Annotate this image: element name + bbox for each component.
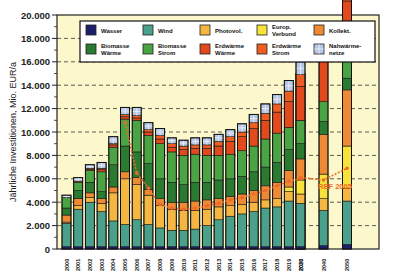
bar-2010 xyxy=(179,140,188,249)
bar-segment xyxy=(343,0,352,1)
bar-segment xyxy=(132,220,141,247)
ref-marker xyxy=(217,202,221,206)
bar-segment xyxy=(319,59,328,101)
bar-segment xyxy=(144,136,153,164)
bar-segment xyxy=(121,179,130,225)
bar-segment xyxy=(273,133,282,162)
bar-segment xyxy=(97,172,106,192)
bar-segment xyxy=(167,182,176,202)
bar-segment xyxy=(144,130,153,132)
bar-segment xyxy=(121,172,130,179)
bar-segment xyxy=(261,139,270,167)
bar-segment xyxy=(109,147,118,165)
bar-segment xyxy=(179,210,188,230)
bar-segment xyxy=(167,144,176,148)
x-tick-label: 2040 xyxy=(321,259,327,271)
bar-segment xyxy=(74,191,83,199)
bar-2000 xyxy=(62,195,71,249)
legend-swatch xyxy=(314,25,324,35)
bar-segment xyxy=(121,114,130,116)
bar-segment xyxy=(156,139,165,144)
bar-2001 xyxy=(74,178,83,249)
bar-segment xyxy=(226,154,235,179)
legend-label: Wärme xyxy=(215,50,236,56)
bar-segment xyxy=(179,146,188,150)
bar-segment xyxy=(238,176,247,194)
x-tick-label: 2003 xyxy=(99,259,105,271)
bar-segment xyxy=(74,199,83,206)
bar-segment xyxy=(62,215,71,222)
bar-segment xyxy=(284,102,293,128)
bar-segment xyxy=(249,172,258,191)
bar-segment xyxy=(132,118,141,120)
y-axis: 02.0004.0006.0008.00010.00012.00014.0001… xyxy=(21,10,57,255)
bar-segment xyxy=(191,182,200,201)
bar-segment xyxy=(319,134,328,174)
legend-label: Nahwärme- xyxy=(329,43,361,49)
bar-segment xyxy=(284,91,293,102)
bar-segment xyxy=(132,178,141,185)
bar-segment xyxy=(167,209,176,230)
bar-segment xyxy=(284,150,293,171)
bar-segment xyxy=(261,120,270,139)
bar-segment xyxy=(238,151,247,177)
bar-segment xyxy=(85,171,94,183)
y-axis-title: Jährliche Investitionen, Mio. EUR/a xyxy=(8,62,18,202)
x-tick-label: 2007 xyxy=(145,259,151,271)
stacked-bar-chart: 02.0004.0006.0008.00010.00012.00014.0001… xyxy=(0,0,395,278)
ref-marker xyxy=(193,206,197,210)
x-axis: 2000200120022003200420052006200720082009… xyxy=(64,258,351,271)
bar-segment xyxy=(97,212,106,247)
x-tick-label: 2008 xyxy=(157,259,163,271)
legend-label: Strom xyxy=(158,50,175,56)
bar-segment xyxy=(179,155,188,184)
bar-segment xyxy=(319,210,328,245)
x-tick-label: 2050 xyxy=(344,259,350,271)
y-tick-label: 16.000 xyxy=(21,56,50,67)
y-tick-label: 0 xyxy=(45,244,50,255)
bar-segment xyxy=(226,216,235,246)
bar-segment xyxy=(85,198,94,203)
legend-label: Erdwärme xyxy=(215,43,245,49)
legend-label: Biomasse xyxy=(158,43,187,49)
legend-label: Photovol. xyxy=(215,28,243,34)
legend-swatch xyxy=(257,44,267,54)
bar-segment xyxy=(296,120,305,143)
bar-segment xyxy=(121,117,130,119)
bar-segment xyxy=(179,185,188,203)
bar-2002 xyxy=(85,165,94,249)
bar-segment xyxy=(319,102,328,122)
legend-label: Kollekt. xyxy=(329,28,351,34)
bar-segment xyxy=(132,185,141,220)
bar-segment xyxy=(109,165,118,187)
bar-segment xyxy=(261,208,270,247)
bar-2017 xyxy=(261,104,270,249)
bar-segment xyxy=(109,187,118,193)
ref-marker xyxy=(345,166,349,170)
y-tick-label: 12.000 xyxy=(21,103,50,114)
bar-2005 xyxy=(121,107,130,249)
bar-segment xyxy=(226,141,235,154)
bar-segment xyxy=(191,148,200,154)
bar-segment xyxy=(261,167,270,186)
legend-label: Europ. xyxy=(272,24,291,30)
ref-marker xyxy=(264,189,268,193)
x-tick-label: 2004 xyxy=(110,258,116,271)
legend-swatch xyxy=(143,25,153,35)
bar-segment xyxy=(296,86,305,120)
bar-segment xyxy=(62,198,71,209)
bar-segment xyxy=(74,206,83,210)
x-tick-label: 2009 xyxy=(169,259,175,271)
bar-segment xyxy=(85,182,94,193)
bar-segment xyxy=(132,116,141,118)
bar-2003 xyxy=(97,162,106,249)
bar-segment xyxy=(238,214,247,247)
x-tick-label: 2005 xyxy=(122,259,128,271)
x-tick-label: 2006 xyxy=(134,259,140,271)
bar-segment xyxy=(121,146,130,172)
bar-segment xyxy=(273,112,282,133)
bar-segment xyxy=(144,164,153,190)
bar-segment xyxy=(144,224,153,246)
bar-segment xyxy=(214,141,223,146)
legend-label: Wasser xyxy=(101,28,123,34)
